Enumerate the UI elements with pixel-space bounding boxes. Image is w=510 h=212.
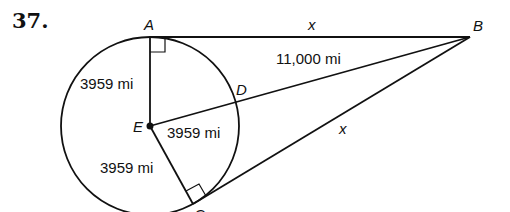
center-point-e	[147, 123, 154, 130]
right-angle-mark-a	[150, 37, 165, 52]
label-radius-ed: 3959 mi	[167, 124, 220, 141]
label-tangent-cb: x	[338, 120, 347, 137]
right-angle-mark-c	[186, 184, 206, 196]
label-point-b: B	[473, 17, 483, 34]
label-segment-be: 11,000 mi	[276, 50, 341, 67]
label-tangent-ab: x	[307, 16, 316, 33]
label-point-a: A	[143, 16, 154, 33]
label-point-d: D	[236, 81, 247, 98]
label-radius-ec: 3959 mi	[100, 159, 153, 176]
label-radius-ea: 3959 mi	[80, 75, 133, 92]
geometry-figure: A B D E C 3959 mi 3959 mi 3959 mi 11,000…	[0, 0, 510, 212]
label-point-c: C	[194, 206, 205, 212]
label-point-e: E	[133, 118, 144, 135]
